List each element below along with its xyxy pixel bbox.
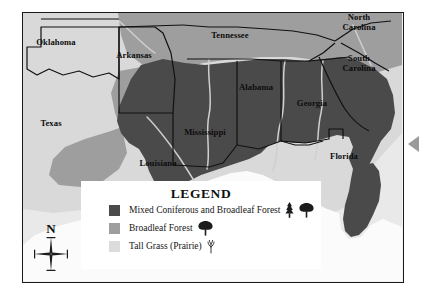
- state-label-mississippi: Mississippi: [173, 128, 237, 138]
- compass-rose: N: [28, 222, 74, 274]
- state-label-georgia: Georgia: [286, 99, 338, 109]
- compass-rose-icon: [33, 236, 69, 272]
- legend-icons-tall-grass: [206, 239, 216, 254]
- state-label-arkansas: Arkansas: [104, 51, 164, 61]
- broadleaf-tree-icon: [197, 220, 214, 236]
- legend-item-tall-grass: Tall Grass (Prairie): [109, 237, 321, 255]
- legend-title: LEGEND: [81, 186, 321, 201]
- legend-swatch-tall-grass: [109, 241, 120, 252]
- broadleaf-tree-icon: [298, 202, 315, 218]
- state-label-texas: Texas: [27, 119, 75, 129]
- state-label-florida: Florida: [320, 152, 368, 162]
- state-label-north-carolina: North Carolina: [330, 13, 388, 32]
- state-label-south-carolina: South Carolina: [330, 54, 388, 73]
- conifer-tree-icon: [284, 202, 295, 218]
- map-figure: Oklahoma Arkansas Tennessee North Caroli…: [0, 0, 430, 298]
- grass-tuft-icon: [206, 239, 216, 254]
- legend-swatch-broadleaf-forest: [109, 223, 120, 234]
- legend-label-broadleaf-forest: Broadleaf Forest: [129, 223, 193, 233]
- legend-icons-mixed-forest: [284, 202, 315, 218]
- legend-label-mixed-forest: Mixed Coniferous and Broadleaf Forest: [129, 205, 280, 215]
- state-label-louisiana: Louisiana: [128, 159, 188, 169]
- legend-item-mixed-forest: Mixed Coniferous and Broadleaf Forest: [109, 201, 321, 219]
- state-label-alabama: Alabama: [228, 83, 284, 93]
- legend-panel: LEGEND Mixed Coniferous and Broadleaf Fo…: [81, 181, 321, 269]
- legend-item-broadleaf-forest: Broadleaf Forest: [109, 219, 321, 237]
- state-label-oklahoma: Oklahoma: [25, 38, 87, 48]
- compass-north-label: N: [28, 222, 74, 236]
- legend-icons-broadleaf-forest: [197, 220, 214, 236]
- left-pointing-triangle-icon[interactable]: [408, 136, 419, 152]
- state-label-tennessee: Tennessee: [198, 31, 262, 41]
- legend-label-tall-grass: Tall Grass (Prairie): [129, 241, 202, 251]
- legend-swatch-mixed-forest: [109, 205, 120, 216]
